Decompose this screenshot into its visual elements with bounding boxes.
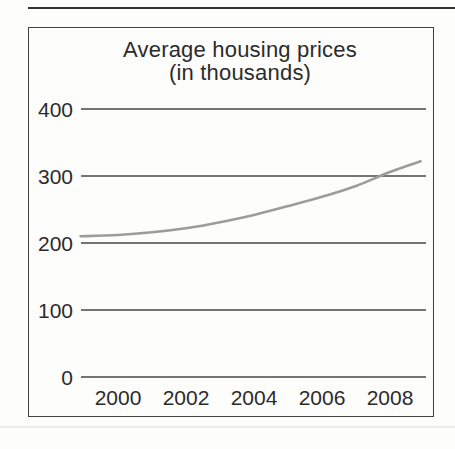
y-tick-label: 0 <box>61 366 73 389</box>
x-tick-label: 2006 <box>299 386 346 409</box>
line-chart: 400300200100020002002200420062008 <box>29 28 433 416</box>
y-tick-label: 400 <box>38 98 73 121</box>
top-divider <box>28 7 455 9</box>
x-tick-label: 2002 <box>163 386 210 409</box>
y-tick-label: 100 <box>38 299 73 322</box>
scanned-page: 400300200100020002002200420062008 Averag… <box>0 0 455 449</box>
chart-title-line2: (in thousands) <box>47 61 433 84</box>
bottom-divider <box>0 426 455 428</box>
y-tick-label: 200 <box>38 232 73 255</box>
chart-title-line1: Average housing prices <box>47 38 433 61</box>
x-tick-label: 2008 <box>367 386 414 409</box>
price-curve <box>81 161 421 236</box>
x-tick-label: 2004 <box>231 386 278 409</box>
chart-title: Average housing prices (in thousands) <box>29 38 433 84</box>
y-tick-label: 300 <box>38 165 73 188</box>
x-tick-label: 2000 <box>95 386 142 409</box>
chart-panel: 400300200100020002002200420062008 Averag… <box>28 27 434 417</box>
